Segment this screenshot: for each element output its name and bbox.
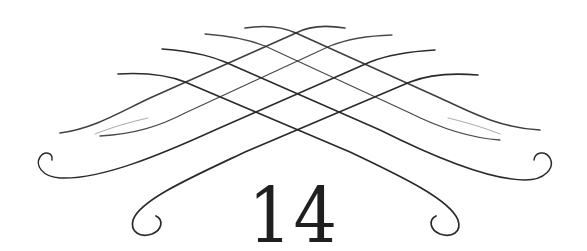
line-a2 — [100, 35, 392, 136]
number-label: 14 — [29, 178, 557, 251]
line-d2 — [205, 34, 500, 140]
line-a1 — [60, 26, 345, 133]
line-d1 — [245, 26, 540, 130]
